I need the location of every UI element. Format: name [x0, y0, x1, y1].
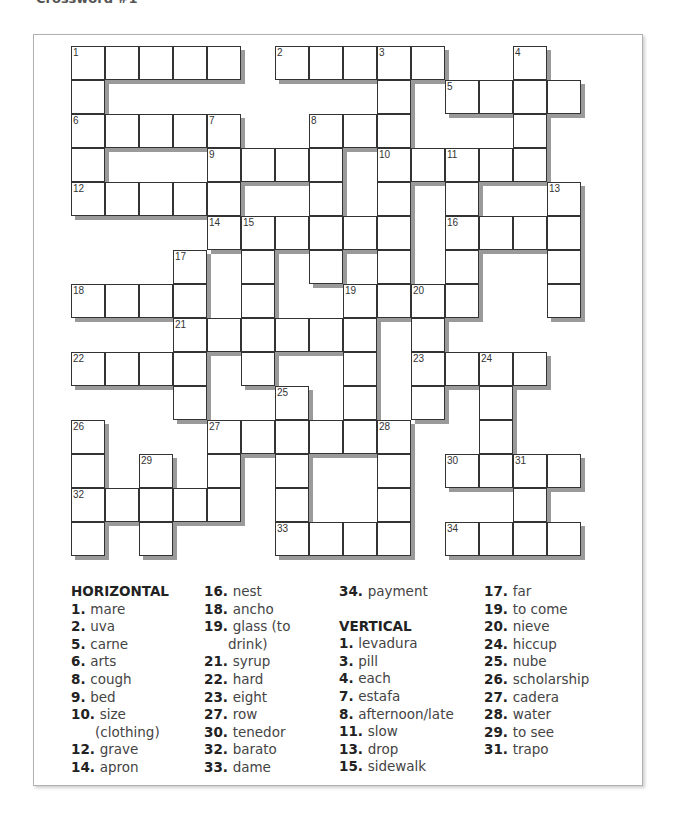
grid-cell[interactable]: [547, 250, 581, 284]
grid-cell[interactable]: 4: [513, 46, 547, 80]
grid-cell[interactable]: [411, 318, 445, 352]
grid-cell[interactable]: [445, 284, 479, 318]
grid-cell[interactable]: [479, 454, 513, 488]
grid-cell[interactable]: [547, 284, 581, 318]
grid-cell[interactable]: 28: [377, 420, 411, 454]
grid-cell[interactable]: [105, 182, 139, 216]
grid-cell[interactable]: [139, 352, 173, 386]
grid-cell[interactable]: 16: [445, 216, 479, 250]
grid-cell[interactable]: [343, 114, 377, 148]
grid-cell[interactable]: 22: [71, 352, 105, 386]
grid-cell[interactable]: [547, 522, 581, 556]
grid-cell[interactable]: [479, 420, 513, 454]
grid-cell[interactable]: [105, 46, 139, 80]
grid-cell[interactable]: 31: [513, 454, 547, 488]
grid-cell[interactable]: [275, 420, 309, 454]
grid-cell[interactable]: [71, 80, 105, 114]
grid-cell[interactable]: [513, 80, 547, 114]
grid-cell[interactable]: [479, 386, 513, 420]
grid-cell[interactable]: [377, 216, 411, 250]
grid-cell[interactable]: 1: [71, 46, 105, 80]
grid-cell[interactable]: [377, 488, 411, 522]
grid-cell[interactable]: [207, 488, 241, 522]
grid-cell[interactable]: [309, 250, 343, 284]
grid-cell[interactable]: [173, 352, 207, 386]
grid-cell[interactable]: [207, 318, 241, 352]
grid-cell[interactable]: [343, 46, 377, 80]
grid-cell[interactable]: [275, 216, 309, 250]
grid-cell[interactable]: [71, 454, 105, 488]
grid-cell[interactable]: 19: [343, 284, 377, 318]
grid-cell[interactable]: 12: [71, 182, 105, 216]
grid-cell[interactable]: 26: [71, 420, 105, 454]
grid-cell[interactable]: [479, 522, 513, 556]
grid-cell[interactable]: [411, 386, 445, 420]
grid-cell[interactable]: [71, 522, 105, 556]
grid-cell[interactable]: [105, 488, 139, 522]
grid-cell[interactable]: [275, 488, 309, 522]
grid-cell[interactable]: 24: [479, 352, 513, 386]
grid-cell[interactable]: [309, 46, 343, 80]
grid-cell[interactable]: 25: [275, 386, 309, 420]
grid-cell[interactable]: 9: [207, 148, 241, 182]
grid-cell[interactable]: [445, 182, 479, 216]
grid-cell[interactable]: [513, 216, 547, 250]
grid-cell[interactable]: [479, 216, 513, 250]
grid-cell[interactable]: 2: [275, 46, 309, 80]
grid-cell[interactable]: [309, 216, 343, 250]
grid-cell[interactable]: [343, 386, 377, 420]
grid-cell[interactable]: [343, 216, 377, 250]
grid-cell[interactable]: [547, 454, 581, 488]
grid-cell[interactable]: [241, 250, 275, 284]
grid-cell[interactable]: 15: [241, 216, 275, 250]
grid-cell[interactable]: [207, 454, 241, 488]
grid-cell[interactable]: [343, 352, 377, 386]
grid-cell[interactable]: [173, 114, 207, 148]
grid-cell[interactable]: [309, 148, 343, 182]
grid-cell[interactable]: [377, 522, 411, 556]
grid-cell[interactable]: [241, 420, 275, 454]
grid-cell[interactable]: [207, 182, 241, 216]
grid-cell[interactable]: [513, 114, 547, 148]
grid-cell[interactable]: [513, 522, 547, 556]
grid-cell[interactable]: [445, 352, 479, 386]
grid-cell[interactable]: [139, 114, 173, 148]
grid-cell[interactable]: [309, 182, 343, 216]
grid-cell[interactable]: [377, 284, 411, 318]
grid-cell[interactable]: 7: [207, 114, 241, 148]
grid-cell[interactable]: [343, 318, 377, 352]
grid-cell[interactable]: [309, 522, 343, 556]
grid-cell[interactable]: [139, 488, 173, 522]
grid-cell[interactable]: [241, 284, 275, 318]
grid-cell[interactable]: 27: [207, 420, 241, 454]
grid-cell[interactable]: [343, 522, 377, 556]
grid-cell[interactable]: [547, 80, 581, 114]
grid-cell[interactable]: 14: [207, 216, 241, 250]
grid-cell[interactable]: 10: [377, 148, 411, 182]
grid-cell[interactable]: [479, 148, 513, 182]
grid-cell[interactable]: 30: [445, 454, 479, 488]
grid-cell[interactable]: [377, 114, 411, 148]
grid-cell[interactable]: [377, 80, 411, 114]
grid-cell[interactable]: [377, 454, 411, 488]
grid-cell[interactable]: 6: [71, 114, 105, 148]
grid-cell[interactable]: [173, 46, 207, 80]
grid-cell[interactable]: [513, 352, 547, 386]
grid-cell[interactable]: 20: [411, 284, 445, 318]
grid-cell[interactable]: [139, 182, 173, 216]
grid-cell[interactable]: [173, 386, 207, 420]
grid-cell[interactable]: [207, 46, 241, 80]
grid-cell[interactable]: [173, 284, 207, 318]
grid-cell[interactable]: [241, 148, 275, 182]
grid-cell[interactable]: [513, 488, 547, 522]
grid-cell[interactable]: 5: [445, 80, 479, 114]
grid-cell[interactable]: [513, 148, 547, 182]
grid-cell[interactable]: 23: [411, 352, 445, 386]
grid-cell[interactable]: 18: [71, 284, 105, 318]
grid-cell[interactable]: [139, 522, 173, 556]
grid-cell[interactable]: [275, 454, 309, 488]
grid-cell[interactable]: [377, 250, 411, 284]
grid-cell[interactable]: 3: [377, 46, 411, 80]
grid-cell[interactable]: [105, 284, 139, 318]
grid-cell[interactable]: [139, 46, 173, 80]
